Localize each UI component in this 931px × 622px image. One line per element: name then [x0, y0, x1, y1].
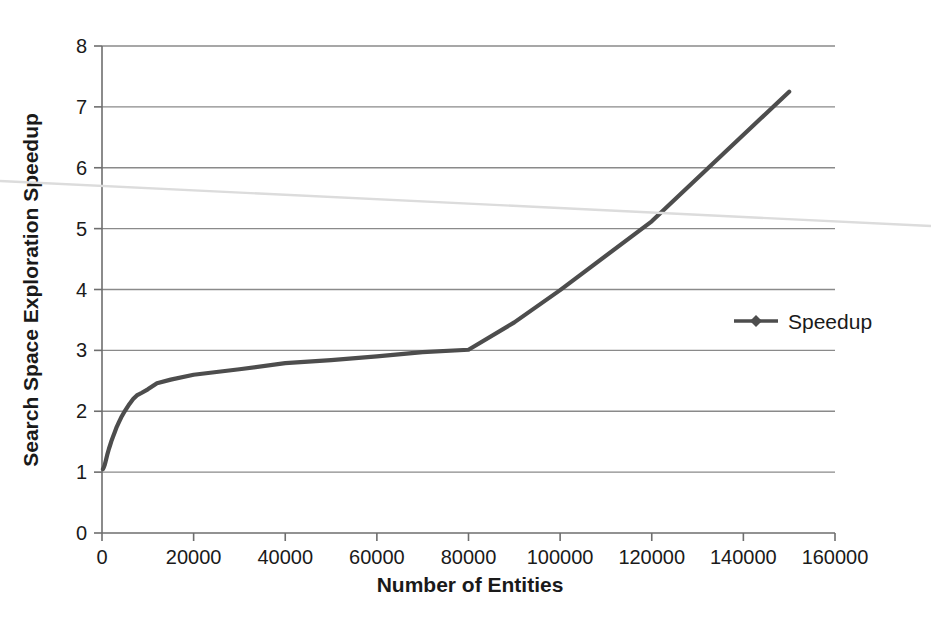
x-tick-label: 0: [96, 546, 107, 568]
y-tick-label: 6: [76, 157, 87, 179]
x-tick-label: 20000: [166, 546, 222, 568]
x-axis-title: Number of Entities: [377, 573, 564, 596]
x-tick-label: 60000: [349, 546, 405, 568]
x-tick-label: 80000: [441, 546, 497, 568]
y-axis-tick-labels: 012345678: [76, 35, 87, 544]
legend-label-speedup: Speedup: [788, 310, 872, 333]
y-tick-label: 7: [76, 96, 87, 118]
y-tick-label: 3: [76, 339, 87, 361]
x-tick-label: 100000: [527, 546, 594, 568]
y-tick-label: 4: [76, 279, 87, 301]
y-tick-label: 0: [76, 522, 87, 544]
x-axis-tick-labels: 0200004000060000800001000001200001400001…: [96, 546, 868, 568]
x-tick-label: 120000: [618, 546, 685, 568]
speedup-line-chart: 012345678 020000400006000080000100000120…: [0, 0, 931, 622]
chart-screenshot: 012345678 020000400006000080000100000120…: [0, 0, 931, 622]
y-tick-label: 2: [76, 400, 87, 422]
x-tick-label: 160000: [802, 546, 869, 568]
x-tick-label: 40000: [257, 546, 313, 568]
y-axis-title: Search Space Exploration Speedup: [19, 113, 42, 467]
x-tick-label: 140000: [710, 546, 777, 568]
y-tick-label: 1: [76, 461, 87, 483]
y-tick-label: 5: [76, 218, 87, 240]
y-tick-label: 8: [76, 35, 87, 57]
